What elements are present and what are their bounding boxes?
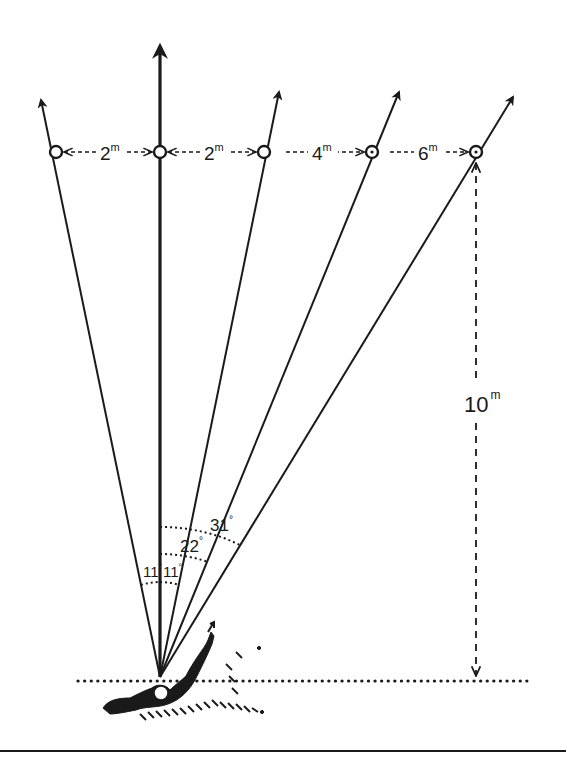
figure-illustration <box>103 622 264 720</box>
target-marker-3 <box>258 146 270 158</box>
figure-hand-arrow <box>208 622 214 632</box>
spray-dot-2 <box>260 710 263 713</box>
target-marker-1 <box>50 146 62 158</box>
target-dot-4 <box>370 150 373 153</box>
spray-dot-1 <box>257 646 260 649</box>
ray-right-1 <box>160 92 279 677</box>
angle-labels: 11° 11° 22° 31° <box>143 514 233 580</box>
angle-arc-11-left <box>141 582 160 585</box>
angle-label-31: 31° <box>210 514 233 535</box>
spray-marks <box>226 652 242 694</box>
ray-left <box>41 100 160 677</box>
target-dot-5 <box>474 150 477 153</box>
figure-head <box>154 686 168 700</box>
trajectory-diagram: 2m 2m 4m 6m 10m 11° 11° 22° 31° <box>0 0 566 764</box>
ray-right-2 <box>160 92 399 677</box>
angle-label-22: 22° <box>180 535 203 556</box>
target-marker-2 <box>154 146 166 158</box>
bottom-rule <box>0 750 566 752</box>
angle-arc-11-right <box>160 582 179 585</box>
